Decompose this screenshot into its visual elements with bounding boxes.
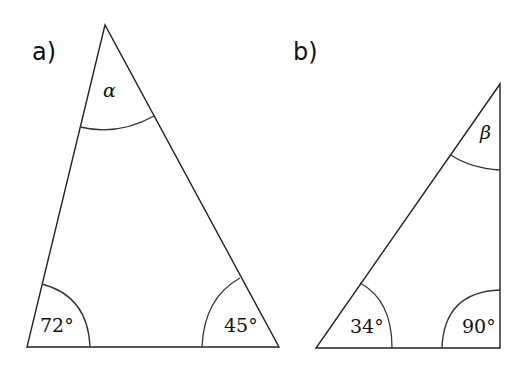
- triangle-a-outline: [27, 25, 279, 347]
- part-label-a: a): [32, 38, 56, 66]
- angle-arc-45: [202, 278, 240, 347]
- angle-label-45: 45°: [224, 314, 258, 336]
- triangle-b: b) β 34° 90°: [293, 38, 500, 348]
- angle-arc-alpha: [80, 116, 154, 130]
- angle-arc-beta: [451, 155, 500, 170]
- part-label-b: b): [293, 38, 318, 66]
- triangle-a: a) α 72° 45°: [27, 25, 279, 347]
- angle-label-90: 90°: [462, 315, 496, 337]
- angle-label-beta: β: [479, 121, 491, 143]
- angle-label-72: 72°: [40, 314, 74, 336]
- triangle-angle-diagram: a) α 72° 45° b) β 34° 90°: [0, 0, 518, 373]
- triangle-b-outline: [316, 84, 500, 348]
- angle-label-alpha: α: [103, 79, 116, 101]
- angle-label-34: 34°: [350, 315, 384, 337]
